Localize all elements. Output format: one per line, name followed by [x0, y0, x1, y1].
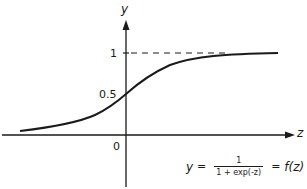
formula-equals-2: = [271, 160, 280, 173]
tick-label-one: 1 [110, 48, 117, 59]
tick-label-half: 0.5 [99, 89, 117, 100]
z-axis-label: z [297, 127, 303, 139]
formula-rhs: f(z) [284, 160, 304, 174]
formula-equals: = [197, 160, 206, 173]
z-axis-arrow-icon [285, 132, 295, 139]
sigmoid-formula: y = 1 1 + exp(-z) = f(z) [186, 156, 304, 177]
sigmoid-curve [20, 53, 278, 131]
formula-numerator: 1 [236, 156, 241, 166]
origin-label: 0 [113, 141, 120, 152]
y-axis-label: y [121, 3, 128, 15]
formula-denominator: 1 + exp(-z) [214, 166, 263, 177]
formula-fraction: 1 1 + exp(-z) [214, 156, 263, 177]
y-axis-arrow-icon [123, 20, 130, 30]
formula-lhs: y [186, 160, 193, 174]
